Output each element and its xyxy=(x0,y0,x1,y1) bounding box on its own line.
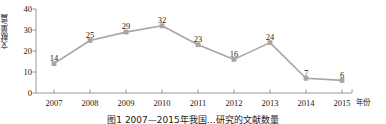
data-point-marker xyxy=(304,76,309,81)
data-point-marker xyxy=(268,40,273,45)
figure-container: 文献量/篇 40 30 20 10 0 2007 2008 2009 2010 … xyxy=(0,0,386,124)
data-point-marker xyxy=(232,57,237,62)
series-line xyxy=(54,26,342,81)
data-point-marker xyxy=(160,23,165,28)
figure-caption: 图1 2007—2015年我国…研究的文献数量 xyxy=(0,115,386,124)
data-point-marker xyxy=(340,78,345,83)
data-point-marker xyxy=(88,38,93,43)
data-point-marker xyxy=(52,61,57,66)
chart-plot xyxy=(0,0,386,124)
x-axis-ticks xyxy=(54,90,352,94)
data-point-marker xyxy=(196,42,201,47)
data-point-marker xyxy=(124,30,129,35)
y-axis-ticks xyxy=(33,9,37,93)
